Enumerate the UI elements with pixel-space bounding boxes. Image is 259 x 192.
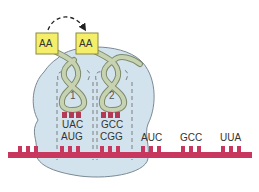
anticodon-block bbox=[62, 112, 67, 118]
dashed-arrow-icon bbox=[48, 17, 84, 30]
anticodon-block bbox=[101, 112, 106, 118]
anticodon-block bbox=[108, 112, 113, 118]
codon-label: GCC bbox=[180, 132, 202, 143]
anticodon-block bbox=[69, 112, 74, 118]
svg-text:AA: AA bbox=[79, 38, 93, 49]
trna-2-number: 2 bbox=[109, 90, 115, 101]
amino-acid-right: AA bbox=[76, 33, 98, 54]
anticodon-block bbox=[76, 112, 81, 118]
trna-2-codon: CGG bbox=[100, 131, 123, 142]
svg-text:AA: AA bbox=[39, 38, 53, 49]
codon-label: UUA bbox=[220, 132, 241, 143]
trna-1-codon: AUG bbox=[61, 131, 83, 142]
codon-label: AUC bbox=[141, 132, 162, 143]
trna-1-number: 1 bbox=[70, 90, 76, 101]
trna-2-anticodon: GCC bbox=[101, 119, 123, 130]
translation-diagram: 1 UAC AUG 2 GCC CGG AA AA bbox=[0, 0, 259, 192]
amino-acid-left: AA bbox=[36, 33, 58, 54]
diagram-svg: 1 UAC AUG 2 GCC CGG AA AA bbox=[0, 0, 259, 192]
anticodon-block bbox=[115, 112, 120, 118]
trna-1-anticodon: UAC bbox=[62, 119, 83, 130]
